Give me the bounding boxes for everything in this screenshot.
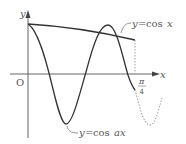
cos-ax-label: y = cos ax (78, 127, 126, 138)
x-axis-arrow-icon (152, 72, 160, 77)
cos-x-curve (28, 24, 135, 40)
tick-label-denominator: 4 (140, 88, 145, 96)
cos-ax-label-fn: cos (93, 127, 110, 138)
cos-x-label-fn: cos (146, 18, 163, 29)
cos-x-label-y: y (131, 18, 138, 29)
y-axis-label: y (19, 8, 26, 19)
function-graph: y x O π 4 y = cos x y = cos ax (0, 0, 186, 144)
origin-label: O (16, 77, 24, 88)
cos-ax-leader (67, 126, 78, 133)
x-axis-label: x (160, 69, 166, 80)
tick-label-numerator: π (138, 77, 145, 86)
cos-x-leader (121, 23, 131, 33)
cos-ax-label-arg: ax (114, 127, 126, 138)
cos-x-label: y = cos x (131, 18, 173, 29)
cos-ax-label-y: y (78, 127, 85, 138)
y-axis-arrow-icon (26, 10, 31, 18)
cos-x-label-arg: x (167, 18, 173, 29)
